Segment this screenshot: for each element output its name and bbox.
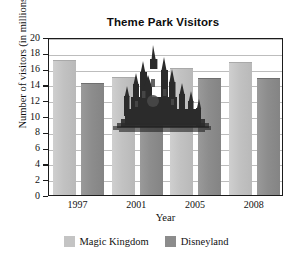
bar-disneyland-1997 [81,83,104,195]
bar-magic-kingdom-1997 [53,60,76,195]
bars-layer [49,39,282,195]
plot-area [48,38,283,196]
y-tick-label: 0 [35,190,40,201]
bar-disneyland-2001 [140,101,163,195]
y-tick-label: 16 [30,63,40,74]
legend-swatch [165,236,176,247]
bar-disneyland-2005 [198,78,221,195]
legend-item-magic-kingdom: Magic Kingdom [64,236,149,247]
y-tick-label: 10 [30,111,40,122]
bar-disneyland-2008 [257,78,280,195]
bar-magic-kingdom-2008 [229,62,252,195]
chart-title: Theme Park Visitors [0,16,292,28]
x-tick-label: 1997 [67,199,87,210]
y-tick-label: 12 [30,95,40,106]
bar-magic-kingdom-2005 [170,68,193,195]
bar-magic-kingdom-2001 [112,77,135,195]
legend-label: Disneyland [181,236,229,247]
y-tick-label: 18 [30,47,40,58]
y-tick-label: 4 [35,158,40,169]
y-axis: 02468101214161820 [0,38,48,196]
y-tick-label: 2 [35,174,40,185]
y-tick-label: 8 [35,126,40,137]
y-tick-label: 6 [35,142,40,153]
legend-swatch [64,236,75,247]
theme-park-visitors-chart: Theme Park Visitors Number of visitors (… [0,0,292,263]
legend-label: Magic Kingdom [80,236,149,247]
y-tick-label: 20 [30,32,40,43]
x-tick-label: 2001 [126,199,146,210]
x-tick-label: 2008 [244,199,264,210]
x-tick-label: 2005 [185,199,205,210]
y-tick-label: 14 [30,79,40,90]
legend-item-disneyland: Disneyland [165,236,229,247]
x-axis-title: Year [48,212,283,223]
chart-legend: Magic KingdomDisneyland [0,236,292,247]
